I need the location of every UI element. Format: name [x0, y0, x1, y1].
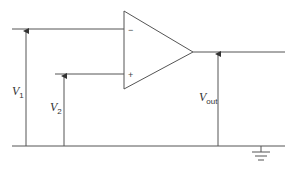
noninverting-input-sign: + — [128, 70, 133, 80]
inverting-input-sign: − — [128, 25, 133, 35]
opamp-triangle — [124, 11, 193, 89]
vout-label: Vout — [199, 90, 218, 106]
v2-label: V2 — [50, 100, 62, 116]
v1-label: V1 — [12, 84, 24, 100]
opamp-diagram: − + V1 V2 Vout — [0, 0, 305, 180]
ground-icon — [252, 146, 270, 160]
